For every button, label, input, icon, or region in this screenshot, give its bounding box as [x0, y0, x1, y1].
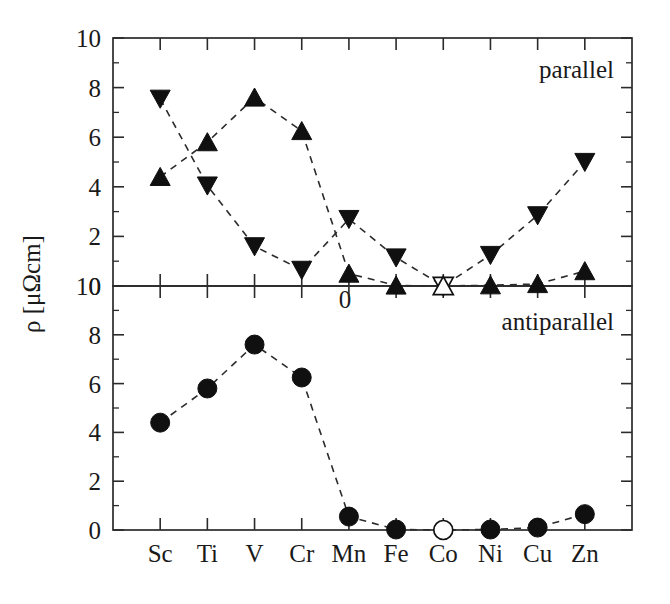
bottom-panel-circle-dashed-line	[160, 345, 585, 530]
top-panel-up-triangle-marker-Fe	[386, 276, 406, 294]
x-axis-label-Zn: Zn	[571, 540, 599, 567]
bottom-panel-circle-marker-Cu	[528, 518, 547, 537]
resistivity-plot: 024681002468100ScTiVCrMnFeCoNiCuZnρ [μΩc…	[0, 0, 670, 604]
top-panel-down-triangle-marker-Cr	[292, 261, 312, 279]
panel-label-antiparallel: antiparallel	[502, 308, 614, 335]
top-panel-ytick-label-2: 2	[89, 223, 102, 250]
bottom-panel-circle-marker-Mn	[339, 507, 358, 526]
top-panel-ytick-label-10: 10	[76, 25, 101, 52]
x-axis-label-Mn: Mn	[332, 540, 367, 567]
bottom-panel-circle-marker-Sc	[151, 413, 170, 432]
bottom-panel-circle-marker-Ti	[198, 379, 217, 398]
bottom-panel-ytick-label-6: 6	[89, 371, 102, 398]
top-panel-up-triangle-marker-Sc	[150, 167, 170, 185]
bottom-panel-circle-marker-Ni	[481, 520, 500, 539]
bottom-panel-circle-marker-Fe	[387, 520, 406, 539]
top-panel-ytick-label-4: 4	[89, 174, 102, 201]
bottom-panel-ytick-label-8: 8	[89, 322, 102, 349]
top-panel-up-triangle-marker-Cu	[528, 275, 548, 293]
bottom-panel-ytick-label-0: 0	[89, 517, 102, 544]
x-axis-label-Fe: Fe	[384, 540, 409, 567]
x-axis-label-Ni: Ni	[478, 540, 503, 567]
top-panel-up-triangle-marker-Cr	[292, 122, 312, 140]
bottom-panel-circle-marker-Co	[434, 521, 453, 540]
x-axis-label-Cu: Cu	[523, 540, 553, 567]
x-axis-label-Cr: Cr	[289, 540, 315, 567]
y-axis-title: ρ [μΩcm]	[18, 235, 45, 333]
top-panel-up-triangle-marker-V	[245, 88, 265, 106]
top-panel-down-triangle-marker-Ni	[480, 246, 500, 264]
x-axis-label-Co: Co	[429, 540, 458, 567]
top-panel-down-triangle-marker-Fe	[386, 249, 406, 267]
bottom-panel-circle-marker-Cr	[292, 368, 311, 387]
top-panel-down-triangle-marker-Zn	[575, 153, 595, 171]
bottom-panel-ytick-label-4: 4	[89, 419, 102, 446]
top-panel-down-triangle-marker-V	[245, 238, 265, 256]
x-axis-label-Ti: Ti	[197, 540, 218, 567]
top-panel-down-triangle-marker-Ti	[197, 177, 217, 195]
bottom-panel-ytick-label-2: 2	[89, 468, 102, 495]
figure-container: 024681002468100ScTiVCrMnFeCoNiCuZnρ [μΩc…	[0, 0, 670, 604]
bottom-panel-ytick-label-10: 10	[76, 273, 101, 300]
top-panel-ytick-label-6: 6	[89, 124, 102, 151]
bottom-panel-circle-marker-V	[245, 335, 264, 354]
top-panel-up-triangle-marker-Mn	[339, 264, 359, 282]
bottom-panel-circle-marker-Zn	[575, 505, 594, 524]
x-axis-label-Sc: Sc	[148, 540, 173, 567]
top-panel-up-triangle-marker-Zn	[575, 262, 595, 280]
panel-label-parallel: parallel	[539, 56, 614, 83]
top-panel-ytick-label-8: 8	[89, 75, 102, 102]
top-panel-up-triangle-dashed-line	[160, 98, 585, 286]
top-panel-down-triangle-marker-Sc	[150, 90, 170, 108]
x-axis-label-V: V	[246, 540, 264, 567]
